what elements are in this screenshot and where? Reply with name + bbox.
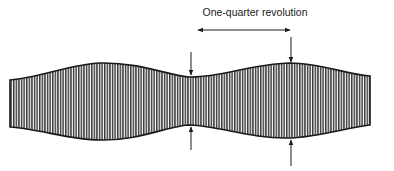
twisted-band-diagram bbox=[0, 0, 394, 171]
hatched-band bbox=[10, 63, 370, 140]
